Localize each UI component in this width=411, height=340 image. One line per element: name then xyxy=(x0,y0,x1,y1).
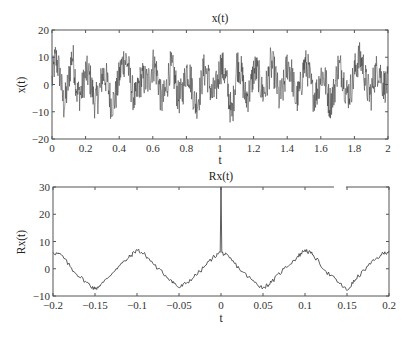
signal-plot-frame xyxy=(52,30,388,139)
autocorrelation-y-axis: 3020100−10 xyxy=(33,181,389,302)
autocorrelation-plot-title: Rx(t) xyxy=(209,170,233,183)
signal-x-tick-label: 1.2 xyxy=(247,142,261,154)
signal-x-tick-label: 0.6 xyxy=(146,142,160,154)
signal-y-tick-label: 10 xyxy=(38,51,50,63)
autocorrelation-y-tick-label: 0 xyxy=(45,263,51,275)
autocorrelation-x-tick-label: −0.05 xyxy=(166,299,192,311)
autocorrelation-plot: Rx(t) −0.2−0.15−0.1−0.0500.050.10.150.2 … xyxy=(15,170,396,324)
autocorrelation-y-tick-label: 10 xyxy=(39,236,51,248)
signal-x-tick-label: 1.4 xyxy=(280,142,294,154)
signal-x-tick-label: 1.6 xyxy=(314,142,328,154)
signal-x-axis: 00.20.40.60.811.21.41.61.82 xyxy=(49,30,391,154)
autocorrelation-x-tick-label: 0 xyxy=(218,299,224,311)
signal-y-tick-label: −20 xyxy=(32,133,50,145)
signal-plot-title: x(t) xyxy=(212,12,229,25)
signal-x-label: t xyxy=(218,154,222,166)
signal-y-label: x(t) xyxy=(15,77,28,94)
signal-x-tick-label: 1 xyxy=(217,142,223,154)
signal-plot: x(t) 00.20.40.60.811.21.41.61.82 20100−1… xyxy=(15,12,391,166)
signal-x-tick-label: 1.8 xyxy=(348,142,362,154)
figure: x(t) 00.20.40.60.811.21.41.61.82 20100−1… xyxy=(0,0,411,340)
signal-x-tick-label: 0 xyxy=(49,142,55,154)
signal-x-tick-label: 0.8 xyxy=(180,142,194,154)
autocorrelation-x-tick-label: 0.1 xyxy=(298,299,312,311)
signal-line xyxy=(52,42,388,122)
autocorrelation-line xyxy=(53,187,389,291)
autocorrelation-x-tick-label: −0.15 xyxy=(82,299,108,311)
autocorrelation-x-axis: −0.2−0.15−0.1−0.0500.050.10.150.2 xyxy=(43,187,396,311)
signal-x-tick-label: 0.4 xyxy=(112,142,126,154)
autocorrelation-y-tick-label: 20 xyxy=(39,208,51,220)
autocorrelation-x-tick-label: −0.1 xyxy=(127,299,147,311)
autocorrelation-y-tick-label: −10 xyxy=(33,290,51,302)
signal-x-tick-label: 2 xyxy=(385,142,391,154)
autocorrelation-x-label: t xyxy=(219,312,223,324)
autocorrelation-y-label: Rx(t) xyxy=(15,230,28,254)
autocorrelation-x-tick-label: 0.05 xyxy=(253,299,273,311)
autocorrelation-x-tick-label: 0.15 xyxy=(337,299,357,311)
autocorrelation-y-tick-label: 30 xyxy=(39,181,51,193)
autocorrelation-x-tick-label: 0.2 xyxy=(382,299,396,311)
signal-y-tick-label: 20 xyxy=(38,24,50,36)
signal-y-tick-label: 0 xyxy=(44,79,50,91)
signal-x-tick-label: 0.2 xyxy=(79,142,93,154)
signal-y-tick-label: −10 xyxy=(32,106,50,118)
